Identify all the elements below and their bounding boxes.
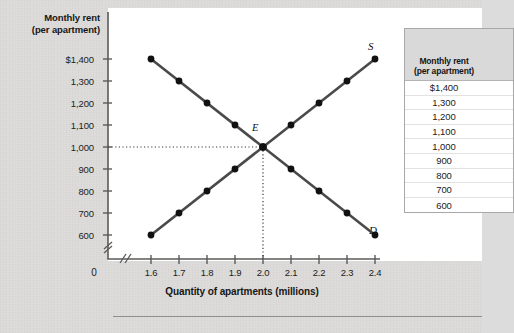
table-row: 1,100 <box>405 125 513 140</box>
table-cell-rent: 1,000 <box>405 141 483 152</box>
table-header-rent: Monthly rent (per apartment) <box>405 56 483 80</box>
table-cell-rent: 600 <box>405 200 483 211</box>
table-row: 1,300 <box>405 96 513 111</box>
table-cell-rent: 1,100 <box>405 126 483 137</box>
equilibrium-point-marker <box>259 143 267 151</box>
table-cell-rent: $1,400 <box>405 82 483 93</box>
table-row: 600 <box>405 198 513 213</box>
table-cell-rent: 1,200 <box>405 111 483 122</box>
table-cell-rent: 700 <box>405 184 483 195</box>
table-row: $1,400 <box>405 81 513 96</box>
caption-divider-rule <box>113 316 482 317</box>
table-cell-rent: 800 <box>405 170 483 181</box>
table-row: 700 <box>405 183 513 198</box>
table-row: 900 <box>405 154 513 169</box>
table-cell-rent: 900 <box>405 155 483 166</box>
table-cell-rent: 1,300 <box>405 97 483 108</box>
rent-quantity-table: Monthly rent (per apartment) $1,400 1,30… <box>404 28 514 213</box>
table-header-rent-line1: Monthly rent <box>409 56 479 66</box>
caption-text-clipped <box>120 324 482 333</box>
table-row: 800 <box>405 169 513 184</box>
table-row: 1,200 <box>405 110 513 125</box>
table-row: 1,000 <box>405 139 513 154</box>
table-header-rent-line2: (per apartment) <box>409 66 479 76</box>
table-header-row: Monthly rent (per apartment) <box>405 29 513 81</box>
axis-lines <box>108 12 380 259</box>
